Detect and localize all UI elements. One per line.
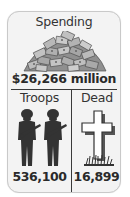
soldiers-icon (14, 108, 70, 168)
spending-title: Spending (8, 14, 120, 29)
troops-value: 536,100 (8, 169, 71, 184)
dead-label: Dead (72, 90, 122, 105)
dead-value: 16,899 (71, 169, 122, 184)
troops-label: Troops (8, 90, 71, 105)
spending-value: $26,266 million (8, 71, 120, 86)
money-pile-icon (22, 31, 108, 73)
stats-card: Spending (7, 11, 121, 193)
grave-cross-icon (78, 109, 118, 167)
